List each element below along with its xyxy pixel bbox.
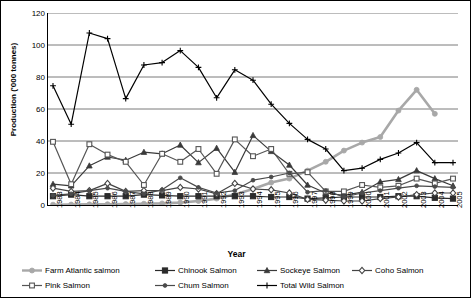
y-axis-title: Production ('000 tonnes) (9, 20, 18, 160)
x-axis-tick-1991: 1991 (200, 191, 209, 208)
x-axis-tick-2004: 2004 (437, 191, 446, 208)
legend-item-pink-salmon[interactable]: Pink Salmon (21, 278, 90, 293)
plot-area (47, 13, 458, 206)
y-axis-tick-20: 20 (36, 169, 45, 178)
legend-item-coho-salmon[interactable]: Coho Salmon (351, 263, 423, 278)
x-axis-tick-1985: 1985 (91, 191, 100, 208)
legend-label: Total Wild Salmon (280, 282, 344, 290)
legend-label: Sockeye Salmon (280, 267, 340, 275)
legend-marker-square-filled-icon (154, 265, 176, 276)
x-axis-tick-1989: 1989 (164, 191, 173, 208)
x-axis-tick-1998: 1998 (328, 191, 337, 208)
legend-marker-square-open-icon (21, 280, 43, 291)
legend-row-1: Farm Atlantic salmonChinook SalmonSockey… (1, 263, 472, 278)
chart-figure: Production ('000 tonnes) 020406080100120… (0, 0, 471, 298)
y-axis-tick-60: 60 (36, 105, 45, 114)
x-axis-tick-1986: 1986 (110, 191, 119, 208)
legend-label: Chinook Salmon (178, 267, 237, 275)
x-axis-tick-1987: 1987 (128, 191, 137, 208)
x-axis-tick-2000: 2000 (364, 191, 373, 208)
legend-marker-triangle-icon (256, 265, 278, 276)
y-axis-tick-80: 80 (36, 73, 45, 82)
x-axis-tick-1984: 1984 (73, 191, 82, 208)
x-axis-tick-2001: 2001 (382, 191, 391, 208)
legend-label: Farm Atlantic salmon (45, 267, 120, 275)
legend-item-chinook-salmon[interactable]: Chinook Salmon (154, 263, 237, 278)
x-axis-tick-2005: 2005 (455, 191, 464, 208)
series-canvas (48, 13, 458, 205)
x-axis-tick-2002: 2002 (400, 191, 409, 208)
legend-marker-diamond-open-icon (351, 265, 373, 276)
legend-label: Chum Salmon (178, 282, 229, 290)
y-axis-tick-0: 0 (41, 201, 45, 210)
plot-container: Production ('000 tonnes) 020406080100120… (1, 1, 473, 249)
x-axis-tick-1983: 1983 (55, 191, 64, 208)
y-axis-tick-100: 100 (32, 41, 45, 50)
x-axis-tick-1993: 1993 (237, 191, 246, 208)
x-axis-tick-2003: 2003 (419, 191, 428, 208)
x-axis-tick-1988: 1988 (146, 191, 155, 208)
legend-item-sockeye-salmon[interactable]: Sockeye Salmon (256, 263, 340, 278)
chart-legend: Farm Atlantic salmonChinook SalmonSockey… (1, 263, 472, 297)
x-axis-tick-1990: 1990 (182, 191, 191, 208)
x-axis-tick-1992: 1992 (219, 191, 228, 208)
x-axis-tick-1999: 1999 (346, 191, 355, 208)
legend-label: Pink Salmon (45, 282, 90, 290)
legend-marker-circle-small-icon (154, 280, 176, 291)
y-axis-tick-labels: 020406080100120 (19, 11, 45, 209)
legend-row-2: Pink SalmonChum SalmonTotal Wild Salmon (1, 278, 472, 293)
legend-marker-circle-icon (21, 265, 43, 276)
legend-item-total-wild-salmon[interactable]: Total Wild Salmon (256, 278, 344, 293)
x-axis-tick-labels: 1983198419851986198719881989199019911992… (47, 206, 459, 250)
x-axis-tick-1997: 1997 (310, 191, 319, 208)
series-total-wild-salmon (50, 30, 456, 173)
legend-label: Coho Salmon (375, 267, 423, 275)
x-axis-tick-1995: 1995 (273, 191, 282, 208)
legend-marker-plus-icon (256, 280, 278, 291)
x-axis-tick-1994: 1994 (255, 191, 264, 208)
legend-item-chum-salmon[interactable]: Chum Salmon (154, 278, 229, 293)
y-axis-tick-40: 40 (36, 137, 45, 146)
x-axis-tick-1996: 1996 (291, 191, 300, 208)
x-axis-title: Year (1, 249, 472, 259)
legend-item-farm-atlantic-salmon[interactable]: Farm Atlantic salmon (21, 263, 120, 278)
y-axis-tick-120: 120 (32, 9, 45, 18)
